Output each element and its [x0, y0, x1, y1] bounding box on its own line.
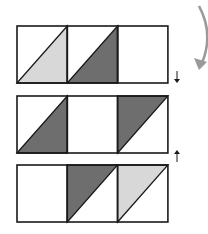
square-cell: [118, 26, 168, 83]
triangle-shade: [67, 165, 117, 222]
down-arrow-head: [174, 79, 180, 83]
curved-arrow-head: [194, 58, 207, 70]
triangle-shade: [17, 96, 67, 153]
triangle-shade: [67, 26, 117, 83]
up-arrow-head: [174, 150, 180, 154]
square-cell: [67, 96, 117, 153]
curved-arrow-icon: [199, 6, 207, 63]
triangle-shade: [118, 165, 168, 222]
triangle-shade: [17, 26, 67, 83]
strip-diagram: [0, 0, 208, 234]
triangle-shade: [118, 96, 168, 153]
square-cell: [17, 165, 67, 222]
